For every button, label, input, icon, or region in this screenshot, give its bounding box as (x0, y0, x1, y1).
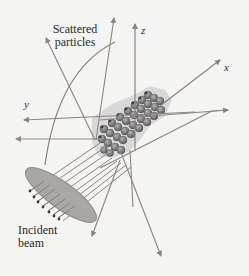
incident-label-line2: beam (18, 237, 57, 250)
x-axis (160, 60, 220, 106)
scattering-diagram: Scattered particles Incident beam z x y (0, 0, 249, 276)
x-axis-label: x (224, 61, 229, 73)
z-axis-label: z (141, 24, 145, 36)
incident-beam-label: Incident beam (18, 224, 57, 250)
y-axis-label: y (24, 98, 29, 110)
scattered-particles-label: Scattered particles (50, 23, 100, 49)
scattered-label-line2: particles (50, 36, 100, 49)
particle-cluster (92, 86, 172, 158)
